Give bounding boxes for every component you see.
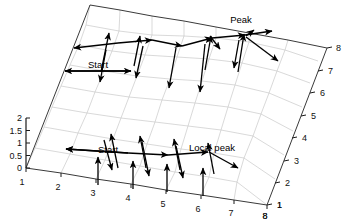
z-tick-0_5: 0.5 <box>9 151 22 161</box>
y-tick-2: 2 <box>285 178 290 188</box>
z-tick-2: 2 <box>17 113 22 123</box>
surface-outline <box>26 5 327 205</box>
y-tick-8: 8 <box>336 43 341 53</box>
x-tick-7: 7 <box>228 208 233 218</box>
arrow-upper-climb-3 <box>205 36 211 70</box>
x-tick-3: 3 <box>90 188 95 198</box>
x-tick-6: 6 <box>195 204 200 214</box>
x-tick-1: 1 <box>19 177 24 187</box>
x-axis: 1 2 3 4 5 6 7 8 <box>19 168 267 221</box>
arrow-lower-climb-2 <box>142 142 149 176</box>
annotation-local-peak: Local peak <box>189 142 235 153</box>
z-axis: 0 0.5 1 1.5 2 <box>9 113 30 173</box>
x-tick-4: 4 <box>125 193 130 203</box>
figure-canvas: 0 0.5 1 1.5 2 1 2 3 4 5 6 7 8 <box>0 0 344 221</box>
z-tick-1: 1 <box>17 138 22 148</box>
x-tick-2: 2 <box>55 182 60 192</box>
arrow-lower-climb-3 <box>176 146 183 178</box>
x-tick-5: 5 <box>160 199 165 209</box>
arrow-upper-spoke-b <box>246 37 278 61</box>
arrow-upper-down-5 <box>234 40 239 68</box>
y-tick-3: 3 <box>294 156 299 166</box>
y-tick-6: 6 <box>320 88 325 98</box>
arrow-upper-down-4 <box>200 44 205 92</box>
z-tick-0: 0 <box>17 163 22 173</box>
arrow-upper-down-3 <box>169 48 176 88</box>
corner-labels: 8 1 <box>262 200 282 221</box>
arrow-lower-ridge-1 <box>128 153 168 155</box>
annotation-peak: Peak <box>230 14 252 25</box>
y-tick-5: 5 <box>311 111 316 121</box>
surface-plot-svg: 0 0.5 1 1.5 2 1 2 3 4 5 6 7 8 <box>0 0 344 221</box>
arrow-upper-ridge-3 <box>182 38 212 46</box>
corner-x-8: 8 <box>262 211 267 221</box>
annotation-start-lower: Start <box>98 144 118 155</box>
y-tick-4: 4 <box>302 133 307 143</box>
y-tick-7: 7 <box>328 66 333 76</box>
arrow-upper-ridge-4 <box>212 35 245 38</box>
arrow-upper-ridge-2 <box>152 40 182 46</box>
z-tick-1_5: 1.5 <box>9 126 22 136</box>
annotation-start-upper: Start <box>88 59 108 70</box>
corner-y-1: 1 <box>277 200 282 210</box>
arrow-upper-ridge-1 <box>118 40 152 43</box>
